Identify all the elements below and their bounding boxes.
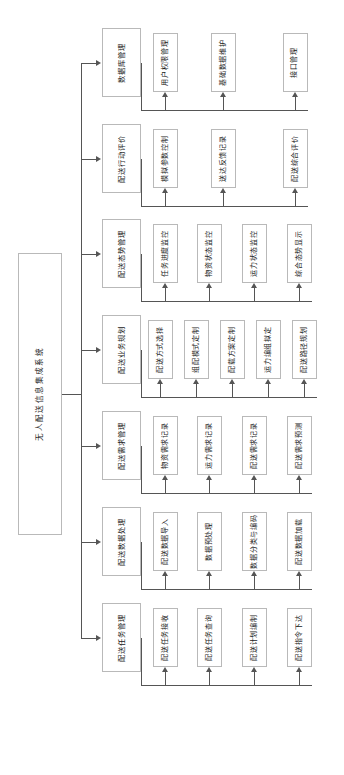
trunk-to-module-line-0	[81, 63, 97, 64]
module-node-5: 配送数据处理	[102, 507, 141, 576]
leaf-node-3-2-label: 配载方案定制	[229, 326, 236, 373]
leaf-node-3-0: 配送方式选择	[148, 320, 173, 379]
leaf-stem-line-6-3	[299, 672, 300, 685]
leaf-node-1-2-label: 配送综合评价	[292, 135, 299, 182]
leaf-node-5-0-label: 配送数据导入	[162, 518, 169, 565]
leaf-arrow-0-1	[220, 92, 226, 97]
module-drop-line-2	[141, 254, 142, 302]
leaf-arrow-1-0	[162, 188, 168, 193]
leaf-node-3-1-label: 组配模式定制	[193, 326, 200, 373]
leaf-node-2-2: 运力状态监控	[242, 224, 267, 283]
leaf-stem-line-0-2	[295, 97, 296, 110]
leaf-arrow-2-0	[162, 283, 168, 288]
leaf-arrow-3-2	[229, 379, 235, 384]
module-node-4-label: 配送需求管理	[118, 421, 125, 469]
module-node-2: 配送态势管理	[102, 219, 141, 288]
module-node-3: 配送业务规划	[102, 315, 141, 384]
leaf-node-5-1: 数据预处理	[197, 512, 222, 571]
leaf-arrow-3-1	[193, 379, 199, 384]
root-node: 无人配送信息集成系统	[18, 253, 62, 535]
module-node-0-label: 数据库管理	[118, 42, 125, 82]
leaf-stem-line-5-2	[254, 576, 255, 589]
child-rail-line-3	[141, 397, 317, 398]
leaf-node-6-2-label: 配送计划编制	[251, 614, 258, 661]
leaf-node-6-1: 配送任务查询	[197, 608, 222, 667]
leaf-node-2-3-label: 综合态势显示	[296, 230, 303, 277]
leaf-arrow-5-0	[162, 571, 168, 576]
leaf-node-3-3: 运力编组拟定	[256, 320, 281, 379]
leaf-node-1-0-label: 模拟参数控制	[162, 135, 169, 182]
leaf-node-3-4: 配送路径规划	[292, 320, 317, 379]
root-node-label: 无人配送信息集成系统	[36, 347, 44, 441]
child-rail-line-5	[141, 589, 312, 590]
module-drop-line-6	[141, 638, 142, 686]
leaf-stem-line-3-1	[196, 384, 197, 397]
leaf-stem-line-3-0	[160, 384, 161, 397]
leaf-stem-line-4-1	[209, 480, 210, 493]
leaf-node-0-1: 基础数据维护	[211, 33, 236, 92]
module-drop-line-1	[141, 159, 142, 207]
module-drop-line-0	[141, 63, 142, 111]
leaf-arrow-4-3	[296, 475, 302, 480]
leaf-arrow-6-2	[251, 667, 257, 672]
trunk-to-module-line-4	[81, 446, 97, 447]
trunk-to-module-line-3	[81, 350, 97, 351]
leaf-node-5-2-label: 数据分类与编码	[251, 514, 258, 569]
leaf-node-6-0: 配送任务接收	[153, 608, 178, 667]
leaf-node-5-1-label: 数据预处理	[206, 522, 213, 561]
module-node-1: 配送行动评价	[102, 124, 141, 193]
leaf-node-0-2-label: 接口管理	[292, 47, 299, 78]
leaf-stem-line-3-2	[232, 384, 233, 397]
trunk-to-module-line-2	[81, 254, 97, 255]
leaf-node-4-1-label: 运力需求记录	[206, 422, 213, 469]
leaf-stem-line-5-0	[165, 576, 166, 589]
leaf-stem-line-2-2	[254, 288, 255, 301]
child-rail-line-0	[141, 110, 308, 111]
leaf-node-6-0-label: 配送任务接收	[162, 614, 169, 661]
leaf-node-2-1: 物资状态监控	[197, 224, 222, 283]
leaf-arrow-3-0	[157, 379, 163, 384]
module-arrow-4	[96, 443, 101, 449]
module-node-0: 数据库管理	[102, 28, 141, 97]
leaf-node-5-0: 配送数据导入	[153, 512, 178, 571]
module-arrow-0	[96, 60, 101, 66]
leaf-stem-line-1-1	[223, 193, 224, 206]
module-node-6: 配送任务管理	[102, 603, 141, 672]
leaf-node-1-1-label: 送达反馈记录	[220, 135, 227, 182]
leaf-arrow-2-2	[251, 283, 257, 288]
leaf-arrow-4-0	[162, 475, 168, 480]
leaf-node-3-3-label: 运力编组拟定	[265, 326, 272, 373]
module-node-4: 配送需求管理	[102, 411, 141, 480]
leaf-stem-line-6-1	[209, 672, 210, 685]
leaf-stem-line-4-2	[254, 480, 255, 493]
leaf-node-0-0-label: 用户权限管理	[162, 39, 169, 86]
leaf-node-6-1-label: 配送任务查询	[206, 614, 213, 661]
leaf-stem-line-0-0	[165, 97, 166, 110]
module-node-3-label: 配送业务规划	[118, 325, 125, 373]
diagram-canvas: 无人配送信息集成系统数据库管理用户权限管理基础数据维护接口管理配送行动评价模拟参…	[0, 0, 344, 775]
leaf-node-4-2-label: 配送需求记录	[251, 422, 258, 469]
leaf-node-5-3: 配送数据加载	[287, 512, 312, 571]
module-node-5-label: 配送数据处理	[118, 517, 125, 565]
child-rail-line-6	[141, 685, 312, 686]
leaf-arrow-5-3	[296, 571, 302, 576]
leaf-arrow-5-2	[251, 571, 257, 576]
leaf-node-0-0: 用户权限管理	[153, 33, 178, 92]
leaf-stem-line-3-3	[268, 384, 269, 397]
child-rail-line-2	[141, 301, 312, 302]
module-node-2-label: 配送态势管理	[118, 229, 125, 277]
leaf-node-6-3: 配送指令下达	[287, 608, 312, 667]
leaf-node-4-0-label: 物资需求记录	[162, 422, 169, 469]
leaf-arrow-3-4	[301, 379, 307, 384]
leaf-node-1-2: 配送综合评价	[283, 129, 308, 188]
leaf-stem-line-3-4	[304, 384, 305, 397]
leaf-arrow-1-2	[292, 188, 298, 193]
leaf-arrow-4-1	[206, 475, 212, 480]
leaf-node-3-2: 配载方案定制	[220, 320, 245, 379]
leaf-arrow-6-1	[206, 667, 212, 672]
module-arrow-6	[96, 635, 101, 641]
leaf-node-6-2: 配送计划编制	[242, 608, 267, 667]
trunk-to-module-line-6	[81, 638, 97, 639]
leaf-node-1-0: 模拟参数控制	[153, 129, 178, 188]
leaf-node-0-1-label: 基础数据维护	[220, 39, 227, 86]
